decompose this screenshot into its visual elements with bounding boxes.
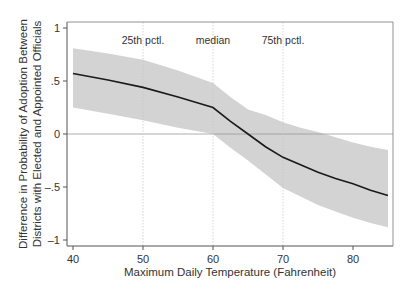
y-tick-label: –.5 [45, 181, 60, 193]
y-tick-label: 1 [54, 22, 60, 34]
x-tick-label: 70 [277, 253, 289, 265]
percentile-label: 25th pctl. [122, 34, 165, 46]
x-axis-title: Maximum Daily Temperature (Fahrenheit) [124, 266, 336, 278]
y-axis-title-line-2: Districts with Elected and Appointed Off… [31, 20, 43, 247]
confidence-band [73, 48, 388, 227]
x-tick-label: 80 [347, 253, 359, 265]
x-tick-label: 50 [137, 253, 149, 265]
x-tick-label: 40 [67, 253, 79, 265]
y-tick-label: .5 [51, 75, 60, 87]
percentile-label: 75th pctl. [262, 34, 305, 46]
y-tick-label: –1 [48, 234, 60, 246]
chart: 25th pctl.median75th pctl. 40506070801.5… [0, 0, 412, 292]
y-tick-label: 0 [54, 128, 60, 140]
percentile-label: median [196, 34, 231, 46]
x-tick-label: 60 [207, 253, 219, 265]
y-axis-title-line-1: Difference in Probability of Adoption Be… [17, 19, 29, 249]
